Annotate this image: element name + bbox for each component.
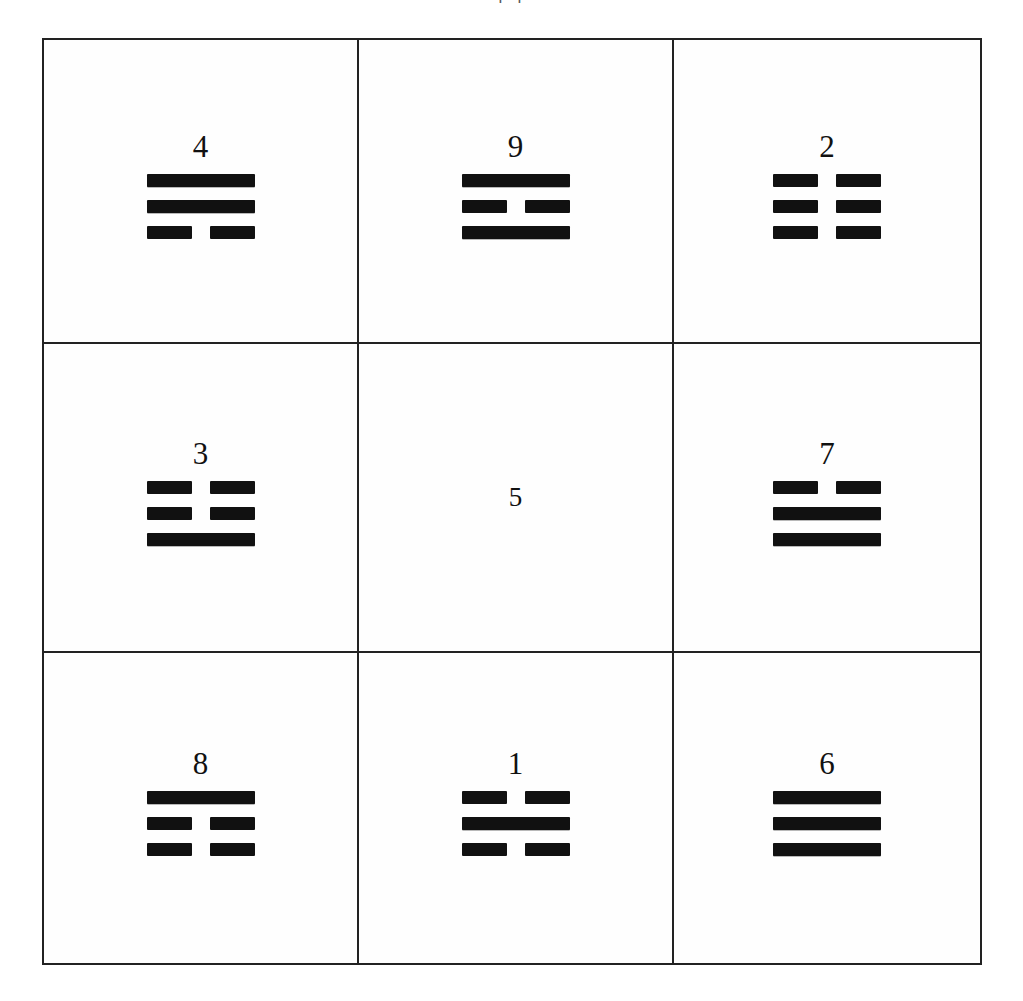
yang-line-solid: [773, 817, 881, 830]
line-segment-left: [147, 843, 192, 856]
grid-cell-1: 1: [359, 653, 674, 963]
line-segment: [773, 507, 881, 520]
line-segment: [147, 200, 255, 213]
line-segment-right: [210, 843, 255, 856]
yin-line-broken: [147, 843, 255, 856]
line-gap: [192, 507, 210, 520]
yang-line-solid: [773, 533, 881, 546]
line-gap: [507, 791, 525, 804]
cell-number-label: 4: [193, 131, 209, 162]
yang-line-solid: [773, 791, 881, 804]
line-segment-left: [773, 174, 818, 187]
yin-line-broken: [147, 481, 255, 494]
line-segment-right: [525, 843, 570, 856]
line-segment-right: [525, 791, 570, 804]
line-gap: [192, 843, 210, 856]
trigram-8: [147, 791, 255, 856]
line-segment: [773, 533, 881, 546]
yin-line-broken: [462, 843, 570, 856]
line-segment: [147, 791, 255, 804]
line-segment-left: [462, 791, 507, 804]
line-segment-right: [210, 481, 255, 494]
line-segment: [773, 843, 881, 856]
line-segment: [773, 817, 881, 830]
line-segment-right: [210, 507, 255, 520]
grid-cell-2: 2: [674, 40, 980, 344]
line-segment-left: [773, 200, 818, 213]
yang-line-solid: [773, 507, 881, 520]
cell-content: 8: [147, 748, 255, 856]
cell-content: 3: [147, 438, 255, 546]
line-gap: [192, 817, 210, 830]
line-segment: [462, 226, 570, 239]
line-segment-right: [210, 226, 255, 239]
line-segment-left: [147, 481, 192, 494]
line-gap: [507, 200, 525, 213]
line-gap: [192, 481, 210, 494]
line-segment-left: [773, 226, 818, 239]
line-gap: [818, 226, 836, 239]
yang-line-solid: [147, 533, 255, 546]
line-segment-right: [836, 200, 881, 213]
trigram-7: [773, 481, 881, 546]
line-segment: [773, 791, 881, 804]
line-segment-left: [462, 200, 507, 213]
line-segment-right: [210, 817, 255, 830]
trigram-3: [147, 481, 255, 546]
trigram-6: [773, 791, 881, 856]
cell-number-label: 9: [508, 131, 524, 162]
trigram-2: [773, 174, 881, 239]
line-gap: [192, 226, 210, 239]
yin-line-broken: [462, 200, 570, 213]
line-segment: [462, 817, 570, 830]
cell-content: 6: [773, 748, 881, 856]
yang-line-solid: [773, 843, 881, 856]
clipped-caption-fragment: [ ]: [0, 0, 1023, 3]
cell-number-label: 6: [819, 748, 835, 779]
cell-number-label: 2: [819, 131, 835, 162]
line-segment: [147, 174, 255, 187]
cell-content: 5: [509, 484, 523, 511]
yin-line-broken: [773, 200, 881, 213]
line-segment: [462, 174, 570, 187]
line-segment-left: [147, 817, 192, 830]
yin-line-broken: [147, 507, 255, 520]
yin-line-broken: [773, 481, 881, 494]
grid-cell-5: 5: [359, 344, 674, 653]
trigram-4: [147, 174, 255, 239]
cell-content: 2: [773, 131, 881, 239]
line-segment-right: [836, 226, 881, 239]
yang-line-solid: [147, 174, 255, 187]
line-segment-left: [462, 843, 507, 856]
cell-number-label: 7: [819, 438, 835, 469]
line-gap: [818, 481, 836, 494]
grid-cell-9: 9: [359, 40, 674, 344]
line-gap: [818, 174, 836, 187]
yang-line-solid: [147, 200, 255, 213]
grid-cell-6: 6: [674, 653, 980, 963]
line-segment-right: [525, 200, 570, 213]
grid-cell-3: 3: [44, 344, 359, 653]
line-gap: [507, 843, 525, 856]
yin-line-broken: [773, 226, 881, 239]
line-segment-right: [836, 174, 881, 187]
yang-line-solid: [462, 174, 570, 187]
yin-line-broken: [773, 174, 881, 187]
cell-content: 4: [147, 131, 255, 239]
trigram-9: [462, 174, 570, 239]
line-segment-left: [147, 226, 192, 239]
magic-square-grid: 492357816: [42, 38, 982, 965]
cell-content: 9: [462, 131, 570, 239]
line-gap: [818, 200, 836, 213]
cell-number-label: 8: [193, 748, 209, 779]
cell-number-label: 3: [193, 438, 209, 469]
line-segment-left: [773, 481, 818, 494]
cell-content: 7: [773, 438, 881, 546]
yang-line-solid: [147, 791, 255, 804]
yin-line-broken: [147, 817, 255, 830]
cell-number-label: 1: [508, 748, 524, 779]
trigram-1: [462, 791, 570, 856]
line-segment-left: [147, 507, 192, 520]
yang-line-solid: [462, 817, 570, 830]
grid-cell-4: 4: [44, 40, 359, 344]
